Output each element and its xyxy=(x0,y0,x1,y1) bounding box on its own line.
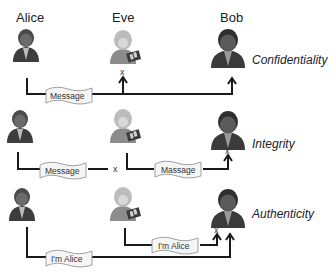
bob-icon xyxy=(211,29,245,68)
authenticity-line-eve xyxy=(125,228,152,245)
alice-icon xyxy=(7,110,33,143)
eve-icon xyxy=(110,30,141,64)
alice-icon xyxy=(9,188,35,221)
message-bubble-original: Message xyxy=(40,162,86,179)
message-bubble-spoofed: I'm Alice xyxy=(152,237,198,254)
integrity-line-alice xyxy=(18,152,40,169)
integrity-line-bob xyxy=(203,156,228,169)
integrity-line-eve xyxy=(127,153,154,169)
eve-icon xyxy=(110,187,141,221)
blocked-x-icon: x xyxy=(113,164,118,174)
blocked-x-icon: x xyxy=(214,225,219,235)
alice-icon xyxy=(13,29,39,62)
svg-text:Massage: Massage xyxy=(161,165,196,175)
svg-text:I'm Alice: I'm Alice xyxy=(158,241,190,251)
svg-text:Message: Message xyxy=(50,91,85,101)
message-bubble-tampered: Massage xyxy=(155,161,201,178)
blocked-x-icon: x xyxy=(120,67,125,77)
svg-text:Message: Message xyxy=(45,166,80,176)
authenticity-line-alice xyxy=(27,227,48,257)
diagram-canvas: x Message x x Message Massage x I'm Alic… xyxy=(0,0,336,277)
blocked-x-icon: x xyxy=(225,146,230,156)
message-bubble: Message xyxy=(46,87,92,104)
bob-icon xyxy=(211,111,245,150)
bob-icon xyxy=(211,189,245,228)
message-bubble-genuine: I'm Alice xyxy=(46,250,92,267)
eve-icon xyxy=(110,109,141,143)
svg-text:I'm Alice: I'm Alice xyxy=(51,254,83,264)
